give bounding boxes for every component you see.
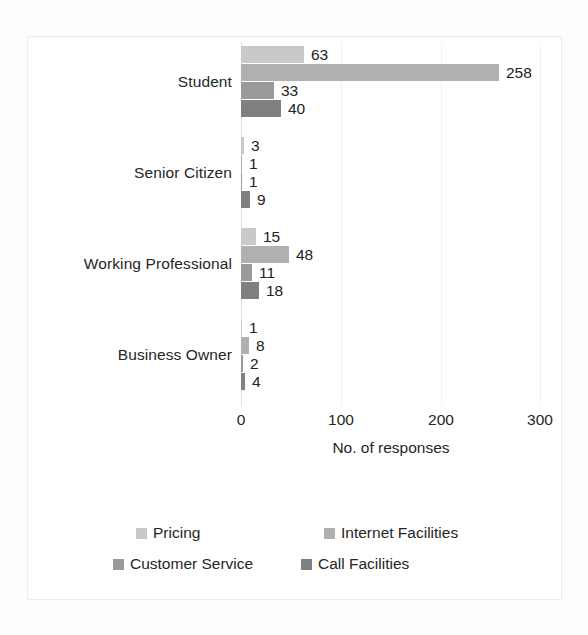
bar-value-label: 258 — [506, 64, 532, 82]
plot-area: Student 63 258 33 40 — [241, 42, 541, 406]
bar-student-call-facilities[interactable] — [241, 100, 281, 117]
bar-value-label: 48 — [296, 246, 313, 264]
bar-working-professional-pricing[interactable] — [241, 228, 256, 245]
bar-working-professional-customer-service[interactable] — [241, 264, 252, 281]
category-group-senior-citizen: Senior Citizen 3 1 1 9 — [241, 137, 541, 209]
bar-working-professional-call-facilities[interactable] — [241, 282, 259, 299]
legend-swatch-icon — [301, 559, 312, 570]
legend-item-customer-service[interactable]: Customer Service — [113, 555, 301, 573]
bar-senior-citizen-pricing[interactable] — [241, 137, 244, 154]
bar-value-label: 1 — [249, 173, 258, 191]
bar-row: 33 — [241, 82, 541, 99]
bar-row: 1 — [241, 155, 541, 172]
legend-label: Pricing — [153, 524, 200, 542]
bar-row: 18 — [241, 282, 541, 299]
bar-row: 2 — [241, 355, 541, 372]
legend-swatch-icon — [113, 559, 124, 570]
bar-value-label: 15 — [263, 228, 280, 246]
category-group-business-owner: Business Owner 1 8 2 4 — [241, 319, 541, 391]
bar-value-label: 2 — [250, 355, 259, 373]
bar-row: 1 — [241, 319, 541, 336]
chart-legend: Pricing Internet Facilities Customer Ser… — [113, 524, 483, 586]
bar-row: 3 — [241, 137, 541, 154]
bar-value-label: 3 — [251, 137, 260, 155]
bar-value-label: 11 — [259, 264, 275, 282]
bar-business-owner-pricing[interactable] — [241, 319, 242, 336]
bar-student-internet-facilities[interactable] — [241, 64, 499, 81]
bar-working-professional-internet-facilities[interactable] — [241, 246, 289, 263]
x-tick-200: 200 — [428, 411, 454, 429]
category-label-business-owner: Business Owner — [118, 346, 232, 364]
bar-value-label: 1 — [249, 319, 258, 337]
bar-value-label: 18 — [266, 282, 283, 300]
legend-swatch-icon — [324, 528, 335, 539]
bar-student-pricing[interactable] — [241, 46, 304, 63]
bar-row: 48 — [241, 246, 541, 263]
category-group-student: Student 63 258 33 40 — [241, 46, 541, 118]
bar-senior-citizen-internet-facilities[interactable] — [241, 155, 242, 172]
chart-frame: Student 63 258 33 40 — [27, 36, 562, 600]
bar-value-label: 9 — [257, 191, 266, 209]
bar-row: 15 — [241, 228, 541, 245]
bar-row: 258 — [241, 64, 541, 81]
legend-item-call-facilities[interactable]: Call Facilities — [301, 555, 409, 573]
legend-label: Call Facilities — [318, 555, 409, 573]
bar-row: 63 — [241, 46, 541, 63]
legend-swatch-icon — [136, 528, 147, 539]
bar-row: 40 — [241, 100, 541, 117]
bar-business-owner-customer-service[interactable] — [241, 355, 243, 372]
legend-label: Customer Service — [130, 555, 253, 573]
legend-item-internet-facilities[interactable]: Internet Facilities — [324, 524, 458, 542]
bar-value-label: 63 — [311, 46, 328, 64]
bar-value-label: 8 — [256, 337, 265, 355]
bar-row: 11 — [241, 264, 541, 281]
bar-senior-citizen-customer-service[interactable] — [241, 173, 242, 190]
category-label-senior-citizen: Senior Citizen — [134, 164, 232, 182]
bar-business-owner-call-facilities[interactable] — [241, 373, 245, 390]
x-axis-title: No. of responses — [241, 439, 541, 457]
bar-row: 9 — [241, 191, 541, 208]
x-axis: 0 100 200 300 — [241, 411, 541, 435]
bar-business-owner-internet-facilities[interactable] — [241, 337, 249, 354]
x-tick-100: 100 — [328, 411, 354, 429]
category-label-student: Student — [178, 73, 232, 91]
legend-item-pricing[interactable]: Pricing — [136, 524, 324, 542]
scanned-page: Student 63 258 33 40 — [0, 0, 588, 635]
bar-student-customer-service[interactable] — [241, 82, 274, 99]
bar-value-label: 40 — [288, 100, 305, 118]
bar-row: 8 — [241, 337, 541, 354]
bar-value-label: 33 — [281, 82, 298, 100]
legend-row: Customer Service Call Facilities — [113, 555, 483, 573]
legend-label: Internet Facilities — [341, 524, 458, 542]
category-group-working-professional: Working Professional 15 48 11 18 — [241, 228, 541, 300]
bar-value-label: 4 — [252, 373, 261, 391]
x-tick-300: 300 — [527, 411, 553, 429]
x-tick-0: 0 — [237, 411, 246, 429]
bar-value-label: 1 — [249, 155, 258, 173]
bar-senior-citizen-call-facilities[interactable] — [241, 191, 250, 208]
legend-row: Pricing Internet Facilities — [113, 524, 483, 542]
bar-row: 1 — [241, 173, 541, 190]
category-label-working-professional: Working Professional — [84, 255, 232, 273]
bar-row: 4 — [241, 373, 541, 390]
